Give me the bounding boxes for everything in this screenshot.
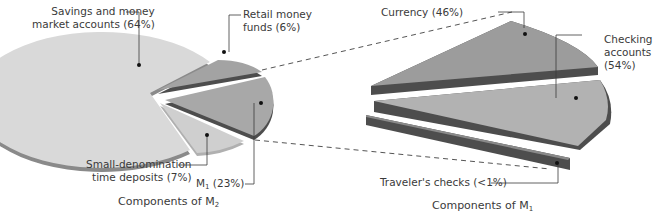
caption-m2-main: Components of M xyxy=(118,195,215,208)
label-retail-line2: funds (6%) xyxy=(243,21,312,34)
caption-m2-sub: 2 xyxy=(215,201,219,209)
label-checking-line2: accounts xyxy=(604,46,653,59)
label-travelers-checks: Traveler's checks (<1%) xyxy=(380,176,507,189)
label-retail-line1: Retail money xyxy=(243,8,312,21)
label-small-denomination: Small-denomination time deposits (7%) xyxy=(86,158,192,184)
label-checking-line1: Checking xyxy=(604,33,653,46)
label-checking-accounts: Checking accounts (54%) xyxy=(604,33,653,72)
caption-m1-main: Components of M xyxy=(432,199,529,212)
label-retail-money-funds: Retail money funds (6%) xyxy=(243,8,312,34)
label-m1-pct: (23%) xyxy=(210,177,245,189)
label-small-line2: time deposits (7%) xyxy=(86,171,192,184)
label-checking-line3: (54%) xyxy=(604,59,653,72)
label-savings-line2: market accounts (64%) xyxy=(32,18,155,31)
label-savings-line1: Savings and money xyxy=(32,5,155,18)
label-m1: M1 (23%) xyxy=(196,177,244,194)
caption-m2: Components of M2 xyxy=(118,195,219,209)
label-currency: Currency (46%) xyxy=(381,6,463,19)
label-small-line1: Small-denomination xyxy=(86,158,192,171)
label-m1-main: M xyxy=(196,177,205,189)
label-savings: Savings and money market accounts (64%) xyxy=(32,5,155,31)
caption-m1-sub: 1 xyxy=(529,205,533,213)
caption-m1: Components of M1 xyxy=(432,199,533,213)
